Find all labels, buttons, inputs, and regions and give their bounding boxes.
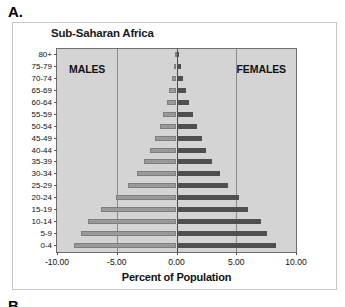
bar-female (177, 195, 239, 200)
pyramid-row: 30-34 (57, 168, 296, 180)
y-tick-label: 35-39 (32, 156, 52, 167)
y-tick-label: 5-9 (40, 228, 52, 239)
x-tick-mark-10 (296, 252, 297, 255)
y-tick-label: 15-19 (32, 204, 52, 215)
chart-panel: Sub-Saharan Africa MALES FEMALES 80+75-7… (12, 22, 337, 290)
x-tick-mark-0 (177, 252, 178, 255)
y-tick-mark (54, 150, 57, 151)
x-tick-mark-5 (236, 252, 237, 255)
y-tick-mark (54, 102, 57, 103)
y-tick-mark (54, 233, 57, 234)
x-tick-mark--5 (117, 252, 118, 255)
pyramid-row: 55-59 (57, 109, 296, 121)
y-tick-label: 50-54 (32, 121, 52, 132)
bar-male (169, 88, 176, 93)
pyramid-row: 45-49 (57, 133, 296, 145)
bar-rows: 80+75-7970-7465-6960-6455-5950-5445-4940… (57, 49, 296, 252)
pyramid-row: 10-14 (57, 216, 296, 228)
bar-female (177, 231, 268, 236)
bar-female (177, 76, 184, 81)
bar-female (177, 207, 249, 212)
bar-female (177, 148, 207, 153)
bar-male (81, 231, 177, 236)
y-tick-mark (54, 114, 57, 115)
pyramid-row: 35-39 (57, 156, 296, 168)
bar-male (101, 207, 176, 212)
y-tick-label: 20-24 (32, 192, 52, 203)
y-tick-mark (54, 185, 57, 186)
bar-female (177, 112, 193, 117)
y-tick-label: 10-14 (32, 216, 52, 227)
x-tick-label--5: -5.00 (107, 257, 126, 267)
x-axis-title: Percent of Population (56, 271, 297, 283)
bar-female (177, 124, 197, 129)
pyramid-row: 75-79 (57, 61, 296, 73)
y-tick-mark (54, 197, 57, 198)
bar-male (150, 148, 176, 153)
y-tick-label: 75-79 (32, 61, 52, 72)
bar-male (116, 195, 177, 200)
panel-letter-a: A. (8, 3, 23, 20)
x-tick-label-0: 0.00 (168, 257, 185, 267)
bar-female (177, 100, 190, 105)
y-tick-label: 45-49 (32, 133, 52, 144)
pyramid-row: 65-69 (57, 85, 296, 97)
bar-female (177, 88, 187, 93)
y-tick-mark (54, 90, 57, 91)
bar-female (177, 171, 220, 176)
bar-female (177, 219, 262, 224)
y-tick-label: 25-29 (32, 180, 52, 191)
y-tick-mark (54, 173, 57, 174)
pyramid-row: 20-24 (57, 192, 296, 204)
plot-area: MALES FEMALES 80+75-7970-7465-6960-6455-… (56, 48, 297, 253)
y-tick-mark (54, 138, 57, 139)
bar-female (177, 159, 213, 164)
bar-female (177, 136, 202, 141)
y-tick-mark (54, 54, 57, 55)
y-tick-mark (54, 161, 57, 162)
bar-female (177, 243, 276, 248)
pyramid-row: 40-44 (57, 145, 296, 157)
bar-male (74, 243, 177, 248)
y-tick-mark (54, 78, 57, 79)
pyramid-row: 80+ (57, 49, 296, 61)
bar-male (137, 171, 176, 176)
y-tick-label: 70-74 (32, 73, 52, 84)
bar-male (163, 112, 176, 117)
y-tick-mark (54, 66, 57, 67)
y-tick-label: 0-4 (40, 240, 52, 251)
y-tick-mark (54, 245, 57, 246)
y-tick-label: 30-34 (32, 168, 52, 179)
y-tick-mark (54, 209, 57, 210)
pyramid-row: 25-29 (57, 180, 296, 192)
bar-male (167, 100, 177, 105)
pyramid-row: 15-19 (57, 204, 296, 216)
bar-male (155, 136, 177, 141)
bar-female (177, 52, 179, 57)
pyramid-row: 70-74 (57, 73, 296, 85)
x-tick-mark--10 (57, 252, 58, 255)
pyramid-row: 60-64 (57, 97, 296, 109)
pyramid-row: 5-9 (57, 228, 296, 240)
x-tick-label--10: -10.00 (45, 257, 69, 267)
y-tick-label: 80+ (38, 49, 52, 60)
bar-female (177, 183, 228, 188)
y-tick-mark (54, 221, 57, 222)
y-tick-label: 55-59 (32, 109, 52, 120)
pyramid-row: 50-54 (57, 121, 296, 133)
bar-male (128, 183, 177, 188)
y-tick-label: 65-69 (32, 85, 52, 96)
panel-letter-b: B. (8, 297, 23, 307)
x-tick-label-10: 10.00 (285, 257, 306, 267)
bar-female (177, 64, 181, 69)
pyramid-row: 0-4 (57, 240, 296, 252)
bar-male (144, 159, 176, 164)
y-tick-mark (54, 126, 57, 127)
y-tick-label: 60-64 (32, 97, 52, 108)
bar-male (160, 124, 177, 129)
y-tick-label: 40-44 (32, 145, 52, 156)
x-tick-label-5: 5.00 (228, 257, 245, 267)
chart-title: Sub-Saharan Africa (51, 27, 154, 39)
bar-male (88, 219, 176, 224)
